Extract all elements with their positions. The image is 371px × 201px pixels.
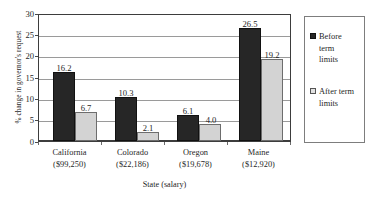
data-label-before-maine: 26.5 — [232, 20, 268, 29]
x-category-colorado-name: Colorado — [117, 148, 148, 157]
y-tick-label-0: 0 — [12, 138, 34, 147]
x-category-maine-salary: ($12,920) — [227, 159, 290, 171]
data-label-after-oregon: 4.0 — [194, 116, 228, 125]
y-tick-label-5: 5 — [12, 116, 34, 125]
x-category-oregon: Oregon ($19,678) — [164, 147, 227, 170]
x-tick-mark-2 — [164, 142, 165, 145]
x-category-maine: Maine ($12,920) — [227, 147, 290, 170]
data-label-after-maine: 19.2 — [255, 51, 289, 60]
bar-before-colorado[interactable] — [115, 97, 137, 141]
bar-after-colorado[interactable] — [137, 132, 159, 141]
legend-label-before-line1: Before — [319, 32, 342, 41]
data-label-after-colorado: 2.1 — [131, 124, 165, 133]
data-label-before-colorado: 10.3 — [108, 89, 144, 98]
x-category-colorado: Colorado ($22,186) — [101, 147, 164, 170]
legend-label-after-line1: After term — [319, 87, 354, 96]
y-tick-label-10: 10 — [12, 95, 34, 104]
bar-after-california[interactable] — [75, 112, 97, 141]
x-tick-mark-0 — [38, 142, 39, 145]
data-label-after-california: 6.7 — [69, 104, 103, 113]
legend-box: Before term limits After term limits — [304, 16, 365, 143]
x-category-colorado-salary: ($22,186) — [101, 159, 164, 171]
bar-group-container: 16.2 6.7 10.3 2.1 6.1 4.0 26.5 19.2 — [39, 15, 290, 141]
x-category-california: California ($99,250) — [38, 147, 101, 170]
x-tick-mark-4 — [290, 142, 291, 145]
bar-after-oregon[interactable] — [199, 124, 221, 141]
data-label-before-california: 16.2 — [46, 64, 82, 73]
x-category-oregon-name: Oregon — [183, 148, 208, 157]
bar-after-maine[interactable] — [261, 59, 283, 141]
y-tick-label-30: 30 — [12, 10, 34, 19]
x-category-california-salary: ($99,250) — [38, 159, 101, 171]
legend-label-before-line2: term — [319, 44, 334, 53]
x-category-oregon-salary: ($19,678) — [164, 159, 227, 171]
data-label-before-oregon: 6.1 — [171, 107, 205, 116]
legend-label-before-line3: limits — [319, 55, 338, 64]
legend-swatch-after-icon — [310, 88, 316, 94]
x-category-california-name: California — [53, 148, 87, 157]
x-tick-mark-3 — [227, 142, 228, 145]
plot-area: 16.2 6.7 10.3 2.1 6.1 4.0 26.5 19.2 — [38, 14, 291, 142]
y-tick-label-25: 25 — [12, 31, 34, 40]
legend-swatch-before-icon — [310, 33, 316, 39]
bar-before-maine[interactable] — [239, 28, 261, 141]
legend-label-after-line2: limits — [319, 99, 338, 108]
x-category-maine-name: Maine — [248, 148, 269, 157]
legend-label-before: Before term limits — [319, 31, 367, 66]
y-axis-tick-labels: 30 25 20 15 10 5 0 — [12, 0, 34, 201]
legend-label-after: After term limits — [319, 86, 367, 109]
x-axis-title: State (salary) — [38, 180, 291, 189]
y-tick-label-20: 20 — [12, 52, 34, 61]
y-tick-label-15: 15 — [12, 74, 34, 83]
bar-chart-figure: % change in governor's request 30 25 20 … — [0, 0, 371, 201]
x-tick-mark-1 — [101, 142, 102, 145]
